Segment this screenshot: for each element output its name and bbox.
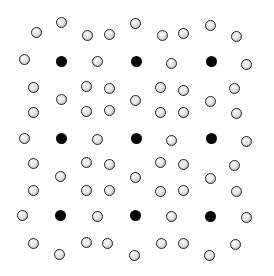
- open-atom: [19, 133, 30, 144]
- open-atom: [130, 95, 141, 106]
- open-atom: [166, 211, 177, 222]
- open-atom: [178, 28, 189, 39]
- solid-atom: [205, 211, 216, 222]
- open-atom: [31, 27, 42, 38]
- open-atom: [156, 238, 167, 249]
- open-atom: [231, 186, 242, 197]
- open-atom: [56, 94, 67, 105]
- open-atom: [178, 159, 189, 170]
- open-atom: [92, 56, 103, 67]
- solid-atom: [206, 56, 217, 67]
- open-atom: [241, 212, 252, 223]
- open-atom: [166, 135, 177, 146]
- open-atom: [155, 157, 166, 168]
- solid-atom: [55, 210, 66, 221]
- open-atom: [241, 59, 252, 70]
- open-atom: [81, 157, 92, 168]
- open-atom: [204, 250, 215, 261]
- open-atom: [104, 185, 115, 196]
- open-atom: [231, 108, 242, 119]
- open-atom: [92, 211, 103, 222]
- open-atom: [178, 238, 189, 249]
- open-atom: [130, 172, 141, 183]
- open-atom: [28, 238, 39, 249]
- open-atom: [19, 54, 30, 65]
- open-atom: [104, 159, 115, 170]
- open-atom: [229, 83, 240, 94]
- solid-atom: [206, 133, 217, 144]
- open-atom: [82, 30, 93, 41]
- open-atom: [155, 186, 166, 197]
- open-atom: [104, 29, 115, 40]
- open-atom: [55, 171, 66, 182]
- open-atom: [230, 239, 241, 250]
- open-atom: [129, 250, 140, 261]
- open-atom: [241, 136, 252, 147]
- open-atom: [157, 30, 168, 41]
- crystal-lattice-diagram: [0, 0, 274, 276]
- open-atom: [81, 237, 92, 248]
- open-atom: [229, 160, 240, 171]
- open-atom: [155, 107, 166, 118]
- open-atom: [102, 238, 113, 249]
- open-atom: [28, 107, 39, 118]
- open-atom: [17, 210, 28, 221]
- open-atom: [155, 82, 166, 93]
- open-atom: [104, 83, 115, 94]
- open-atom: [231, 31, 242, 42]
- open-atom: [28, 82, 39, 93]
- open-atom: [130, 18, 141, 29]
- open-atom: [205, 20, 216, 31]
- open-atom: [92, 134, 103, 145]
- open-atom: [56, 17, 67, 28]
- open-atom: [28, 158, 39, 169]
- open-atom: [54, 249, 65, 260]
- open-atom: [104, 105, 115, 116]
- solid-atom: [56, 133, 67, 144]
- open-atom: [81, 81, 92, 92]
- open-atom: [166, 58, 177, 69]
- open-atom: [28, 185, 39, 196]
- solid-atom: [130, 210, 141, 221]
- open-atom: [205, 96, 216, 107]
- open-atom: [178, 107, 189, 118]
- open-atom: [205, 173, 216, 184]
- open-atom: [178, 185, 189, 196]
- open-atom: [81, 185, 92, 196]
- open-atom: [81, 106, 92, 117]
- solid-atom: [131, 56, 142, 67]
- solid-atom: [131, 133, 142, 144]
- open-atom: [178, 85, 189, 96]
- solid-atom: [56, 56, 67, 67]
